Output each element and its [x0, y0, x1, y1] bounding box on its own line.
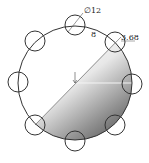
- hole-count-label: 8: [91, 30, 96, 39]
- hole-diameter-label: ∅12: [84, 6, 101, 15]
- bolt-circle-diagram: ∅12 8 3.68: [0, 0, 149, 163]
- offset-value-label: 3.68: [121, 33, 139, 42]
